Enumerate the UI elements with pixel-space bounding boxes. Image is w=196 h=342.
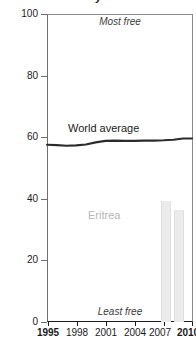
x-tick-2010 [192, 322, 193, 326]
world-average-line [47, 14, 193, 322]
cropped-title-text: y [0, 0, 196, 3]
x-label-2010: 2010 [168, 327, 196, 339]
x-tick-2001 [106, 322, 107, 326]
chart-figure: y 100 80 60 40 20 0 Most free Least free… [0, 0, 196, 342]
x-tick-2004 [135, 322, 136, 326]
y-label-20: 20 [2, 255, 38, 265]
x-tick-2007 [164, 322, 165, 326]
series-label-world-average: World average [68, 122, 139, 134]
x-tick-1995 [48, 322, 49, 326]
y-label-40: 40 [2, 194, 38, 204]
y-label-100: 100 [2, 9, 38, 19]
y-label-60: 60 [2, 132, 38, 142]
x-tick-1998 [77, 322, 78, 326]
y-label-80: 80 [2, 71, 38, 81]
y-tick-0 [41, 322, 47, 323]
annotation-least-free: Least free [47, 306, 193, 317]
series-label-eritrea: Eritrea [88, 209, 120, 221]
world-average-polyline [47, 139, 192, 146]
annotation-most-free: Most free [47, 16, 193, 27]
y-label-0: 0 [2, 317, 38, 327]
